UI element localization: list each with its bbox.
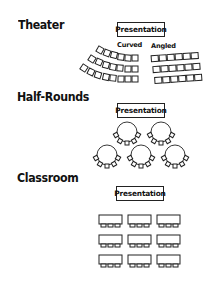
classroom-desks (99, 215, 180, 267)
angled-seating (151, 52, 202, 83)
half-round-tables (93, 122, 188, 168)
curved-seating (80, 46, 138, 82)
seating-diagram (0, 0, 216, 287)
